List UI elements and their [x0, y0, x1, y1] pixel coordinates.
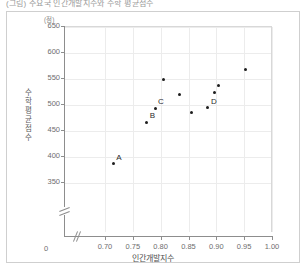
gridline-vertical — [272, 27, 273, 232]
figure-caption: (그림) 주요국 인간개발지수와 수학 평균점수 — [6, 0, 302, 8]
x-tick — [105, 236, 106, 240]
y-axis-line — [64, 26, 65, 207]
y-tick — [61, 182, 65, 183]
x-tick-label: 1.00 — [257, 242, 287, 251]
y-axis-line-lower — [64, 215, 65, 237]
x-axis-line — [64, 236, 272, 237]
data-point-label: A — [116, 153, 121, 162]
gridline-vertical — [105, 27, 106, 232]
y-tick-label: 350 — [34, 178, 60, 186]
y-tick-label: 400 — [34, 152, 60, 160]
y-tick-label: 550 — [34, 74, 60, 82]
x-axis-title: 인간개발지수 — [0, 252, 306, 263]
x-tick — [133, 236, 134, 240]
x-tick-label: 0.80 — [146, 242, 176, 251]
gridline-vertical — [216, 27, 217, 232]
x-tick — [244, 236, 245, 240]
gridline-horizontal — [65, 183, 271, 184]
data-point — [190, 111, 193, 114]
y-tick-label: 650 — [34, 22, 60, 30]
data-point — [154, 107, 157, 110]
y-tick — [61, 130, 65, 131]
data-point — [217, 84, 220, 87]
x-tick — [272, 236, 273, 240]
y-tick — [61, 78, 65, 79]
x-tick — [216, 236, 217, 240]
gridline-vertical — [161, 27, 162, 232]
y-tick — [61, 26, 65, 27]
x-tick — [161, 236, 162, 240]
y-tick-label: 500 — [34, 100, 60, 108]
y-tick-label: 600 — [34, 48, 60, 56]
gridline-vertical — [189, 27, 190, 232]
data-point — [213, 91, 216, 94]
y-axis-break-icon — [59, 207, 70, 216]
data-point — [244, 68, 247, 71]
gridline-horizontal — [65, 105, 271, 106]
gridline-horizontal — [65, 27, 271, 28]
y-tick — [61, 156, 65, 157]
gridline-vertical — [244, 27, 245, 232]
scatter-chart-figure: (그림) 주요국 인간개발지수와 수학 평균점수 (점) 0 수학 평균점수 인… — [0, 0, 306, 270]
y-tick-label: 450 — [34, 126, 60, 134]
x-tick-label: 0.90 — [201, 242, 231, 251]
x-tick-label: 0.70 — [90, 242, 120, 251]
data-point — [145, 121, 148, 124]
data-point-label: B — [150, 111, 155, 120]
y-axis-title: 수학 평균점수 — [22, 88, 34, 142]
x-axis-break-icon — [72, 231, 81, 242]
gridline-horizontal — [65, 131, 271, 132]
gridline-horizontal — [65, 79, 271, 80]
data-point-label: C — [158, 97, 164, 106]
plot-area — [65, 26, 272, 232]
x-tick-label: 0.95 — [229, 242, 259, 251]
data-point — [162, 78, 165, 81]
y-tick — [61, 104, 65, 105]
x-tick-label: 0.85 — [174, 242, 204, 251]
y-tick — [61, 52, 65, 53]
gridline-vertical — [133, 27, 134, 232]
gridline-horizontal — [65, 53, 271, 54]
data-point-label: D — [211, 97, 217, 106]
x-tick — [189, 236, 190, 240]
gridline-horizontal — [65, 157, 271, 158]
data-point — [178, 93, 181, 96]
x-tick-label: 0.75 — [118, 242, 148, 251]
